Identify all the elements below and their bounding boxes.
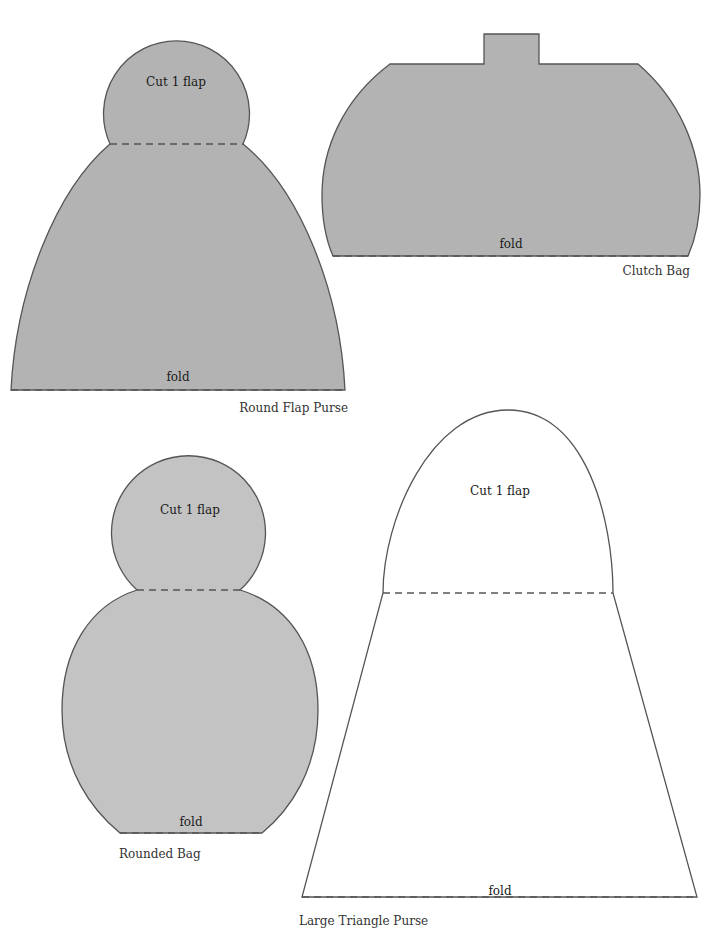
clutch-bag-pattern: fold Clutch Bag: [322, 34, 700, 278]
flap-label: Cut 1 flap: [160, 503, 220, 517]
round-flap-purse-pattern: Cut 1 flap fold Round Flap Purse: [11, 41, 348, 415]
pattern-caption: Round Flap Purse: [239, 401, 348, 415]
clutch-bag-shape: [322, 34, 700, 256]
flap-label: Cut 1 flap: [146, 75, 206, 89]
pattern-sheet: Cut 1 flap fold Round Flap Purse fold Cl…: [0, 0, 728, 931]
pattern-caption: Large Triangle Purse: [299, 914, 428, 928]
fold-label: fold: [499, 237, 523, 251]
pattern-caption: Rounded Bag: [119, 847, 201, 861]
pattern-caption: Clutch Bag: [623, 264, 691, 278]
fold-label: fold: [179, 815, 203, 829]
large-triangle-purse-pattern: Cut 1 flap fold Large Triangle Purse: [299, 410, 697, 928]
fold-label: fold: [166, 370, 190, 384]
round-flap-purse-shape: [11, 41, 345, 390]
rounded-bag-pattern: Cut 1 flap fold Rounded Bag: [62, 456, 318, 861]
fold-label: fold: [488, 884, 512, 898]
flap-label: Cut 1 flap: [470, 484, 530, 498]
